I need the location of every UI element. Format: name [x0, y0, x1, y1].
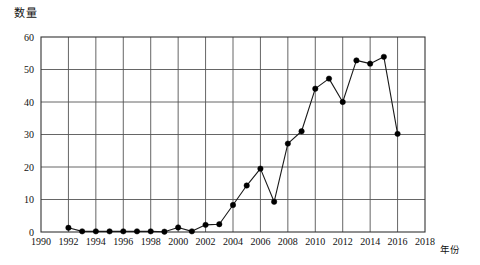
chart-figure: 数量 年份 0102030405060 19901992199419961998…: [0, 0, 480, 265]
data-point-marker: [271, 199, 276, 204]
x-tick-label: 1992: [58, 236, 78, 247]
data-point-marker: [203, 222, 208, 227]
x-tick-label: 2014: [360, 236, 380, 247]
data-point-marker: [79, 229, 84, 234]
line-chart-plot: 0102030405060 19901992199419961998200020…: [0, 0, 480, 265]
x-tick-label: 2006: [250, 236, 270, 247]
x-tick-label: 2004: [223, 236, 243, 247]
data-point-marker: [189, 229, 194, 234]
x-tick-label: 1994: [86, 236, 106, 247]
y-tick-label: 20: [24, 162, 34, 173]
x-axis-tick-labels: 1990199219941996199820002002200420062008…: [31, 236, 435, 247]
x-tick-label: 1990: [31, 236, 51, 247]
x-tick-label: 2016: [388, 236, 408, 247]
data-point-marker: [299, 129, 304, 134]
data-point-marker: [175, 225, 180, 230]
x-tick-label: 1996: [113, 236, 133, 247]
x-tick-label: 2010: [305, 236, 325, 247]
x-tick-label: 2018: [415, 236, 435, 247]
data-point-marker: [162, 229, 167, 234]
data-point-marker: [381, 54, 386, 59]
data-point-marker: [395, 131, 400, 136]
x-tick-label: 2002: [196, 236, 216, 247]
data-point-marker: [367, 61, 372, 66]
y-axis-tick-labels: 0102030405060: [24, 32, 34, 238]
data-point-marker: [121, 229, 126, 234]
x-tick-label: 2012: [333, 236, 353, 247]
data-point-marker: [354, 58, 359, 63]
data-point-marker: [134, 229, 139, 234]
data-point-marker: [285, 141, 290, 146]
y-tick-label: 60: [24, 32, 34, 43]
data-point-marker: [340, 99, 345, 104]
data-point-marker: [107, 229, 112, 234]
data-point-marker: [93, 229, 98, 234]
data-point-marker: [230, 202, 235, 207]
data-point-marker: [217, 222, 222, 227]
y-tick-label: 30: [24, 129, 34, 140]
data-point-marker: [244, 183, 249, 188]
data-point-marker: [148, 229, 153, 234]
x-tick-label: 1998: [141, 236, 161, 247]
data-point-marker: [326, 76, 331, 81]
data-point-marker: [258, 166, 263, 171]
y-tick-label: 50: [24, 64, 34, 75]
data-point-marker: [313, 86, 318, 91]
y-tick-label: 10: [24, 194, 34, 205]
y-tick-label: 40: [24, 97, 34, 108]
x-axis-label: 年份: [440, 242, 460, 256]
data-point-marker: [66, 225, 71, 230]
x-tick-label: 2008: [278, 236, 298, 247]
x-tick-label: 2000: [168, 236, 188, 247]
y-axis-label: 数量: [14, 4, 37, 20]
